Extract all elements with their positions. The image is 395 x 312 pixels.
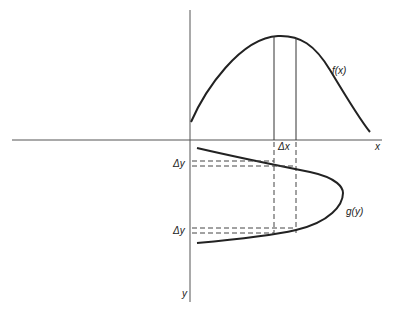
g-curve <box>197 148 343 243</box>
f-curve <box>191 36 370 132</box>
f-curve-label: f(x) <box>332 65 346 76</box>
g-curve-label: g(y) <box>346 206 363 217</box>
y-axis-label: y <box>181 288 188 299</box>
x-axis-label: x <box>374 141 381 152</box>
delta-y-upper-label: Δy <box>172 158 186 169</box>
delta-y-lower-label: Δy <box>172 225 186 236</box>
diagram-canvas: f(x) g(y) x y Δx Δy Δy <box>0 0 395 312</box>
delta-x-label: Δx <box>277 141 291 152</box>
